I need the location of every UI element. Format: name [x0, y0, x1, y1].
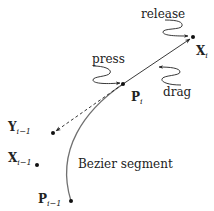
drag-label: drag	[163, 85, 192, 99]
release-label: release	[141, 7, 185, 21]
drag-squiggle-arrow	[159, 67, 181, 85]
bezier-drawing-diagram: release press drag Bezier segment Xi Pi …	[0, 0, 214, 211]
point-p-i-minus-1	[69, 199, 73, 203]
point-x-i-minus-1	[35, 163, 39, 167]
label-p-i: Pi	[131, 90, 143, 106]
tangent-line-to-x-i	[123, 39, 190, 84]
label-y-i-minus-1: Yi−1	[7, 120, 31, 136]
label-x-i: Xi	[196, 44, 208, 60]
dashed-reflection-line	[56, 84, 123, 131]
press-label: press	[92, 52, 125, 66]
release-squiggle-arrow	[163, 20, 188, 36]
label-p-i-minus-1: Pi−1	[38, 192, 61, 208]
point-x-i	[191, 35, 195, 39]
press-squiggle-arrow	[93, 66, 120, 84]
bezier-segment-curve	[67, 84, 123, 201]
label-x-i-minus-1: Xi−1	[8, 151, 32, 167]
point-p-i	[121, 82, 125, 86]
bezier-segment-label: Bezier segment	[78, 157, 173, 171]
point-y-i-minus-1	[51, 131, 55, 135]
